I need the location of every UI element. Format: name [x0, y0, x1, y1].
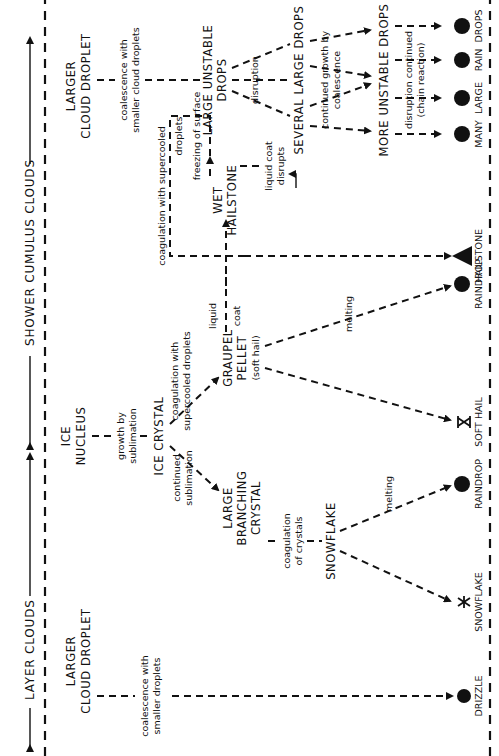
- graupel-label-2: PELLET: [235, 335, 249, 380]
- out-drops: DROPS: [473, 9, 484, 42]
- layer-clouds-heading: LAYER CLOUDS: [23, 599, 37, 700]
- soft-hail-out-label: SOFT HAIL: [473, 397, 484, 447]
- raindrop-icon: [454, 476, 470, 492]
- out-many: MANY: [473, 120, 484, 148]
- drizzle-icon: [457, 689, 471, 703]
- rain-drop-icon-3: [454, 52, 470, 68]
- snowflake-icon: [458, 596, 470, 608]
- coag-crystals-2: of crystals: [293, 516, 304, 565]
- out-rain: RAIN: [473, 49, 484, 72]
- branching-label-2: BRANCHING: [235, 471, 249, 546]
- precipitation-formation-diagram: LAYER CLOUDS SHOWER CUMULUS CLOUDS LARGE…: [0, 0, 499, 756]
- shower-coalescence-2: smaller cloud droplets: [130, 27, 141, 133]
- hailstone-out-label: HAILSTONE: [473, 229, 484, 283]
- growth-label-2: sublimation: [127, 408, 138, 464]
- coat-disrupts-2: disrupts: [275, 147, 286, 185]
- shower-droplet-label-2: CLOUD DROPLET: [79, 33, 93, 139]
- coag-super-2: supercooled droplets: [181, 331, 192, 431]
- shower-droplet-label-1: LARGER: [64, 61, 78, 111]
- coag-loop-1: coagulation with supercooled: [156, 126, 167, 266]
- graupel-melting-label: melting: [343, 296, 354, 332]
- raindrop-icon-2: [454, 276, 470, 292]
- layer-droplet-label-2: CLOUD DROPLET: [79, 608, 93, 714]
- several-large-drops-label: SEVERAL LARGE DROPS: [292, 5, 306, 154]
- growth-label-1: growth by: [115, 412, 126, 460]
- header-band: LAYER CLOUDS SHOWER CUMULUS CLOUDS: [23, 38, 37, 746]
- out-large: LARGE: [473, 82, 484, 114]
- continued-label-1: continued: [171, 454, 182, 501]
- coag-crystals-1: coagulation: [281, 513, 292, 569]
- unstable-label-1: LARGE UNSTABLE: [201, 25, 215, 136]
- graupel-label-3: (soft hail): [250, 335, 261, 380]
- unstable-label-2: DROPS: [215, 58, 229, 101]
- snowflake-melting-label: melting: [383, 476, 394, 512]
- layer-droplet-branch: LARGER CLOUD DROPLET coalescence with sm…: [64, 608, 484, 737]
- rain-drop-icon-4: [454, 18, 470, 34]
- wet-label-2: HAILSTONE: [225, 165, 239, 236]
- layer-droplet-label-1: LARGER: [64, 636, 78, 686]
- ice-nucleus-label-2: NUCLEUS: [74, 407, 88, 466]
- liquid-coat-1: liquid: [207, 303, 218, 329]
- hailstone-icon: [452, 246, 472, 266]
- coag-loop-2: droplets: [173, 117, 184, 156]
- ice-nucleus-label-1: ICE: [59, 426, 73, 447]
- coag-super-1: coagulation with: [169, 342, 180, 421]
- branching-label-3: CRYSTAL: [249, 481, 263, 535]
- liquid-coat-2: coat: [231, 305, 242, 326]
- layer-coalescence-1: coalescence with: [139, 655, 150, 737]
- continued-growth-1: continued growth by: [319, 31, 330, 129]
- raindrop-out-label: RAINDROP: [473, 459, 484, 509]
- shower-droplet-branch: LARGER CLOUD DROPLET coalescence with sm…: [64, 4, 484, 157]
- rain-drop-icon-1: [454, 126, 470, 142]
- continued-growth-2: coalescence: [331, 51, 342, 110]
- branching-label-1: LARGE: [221, 487, 235, 529]
- soft-hail-icon: [458, 416, 470, 428]
- drizzle-label: DRIZZLE: [473, 675, 484, 716]
- shower-coalescence-1: coalescence with: [118, 39, 129, 121]
- chain-reaction-2: (chain reaction): [415, 43, 426, 118]
- shower-cumulus-heading: SHOWER CUMULUS CLOUDS: [23, 159, 37, 346]
- rain-drop-icon-2: [454, 90, 470, 106]
- snowflake-label: SNOWFLAKE: [324, 502, 338, 580]
- snowflake-out-label: SNOWFLAKE: [473, 572, 484, 632]
- coat-disrupts-1: liquid coat: [263, 141, 274, 191]
- wet-label-1: WET: [211, 186, 225, 214]
- chain-reaction-1: disruption continued: [403, 31, 414, 129]
- graupel-label-1: GRAUPEL: [221, 329, 235, 387]
- layer-coalescence-2: smaller droplets: [151, 658, 162, 735]
- ice-nucleus-branch: ICE NUCLEUS growth by sublimation ICE CR…: [59, 91, 484, 631]
- ice-crystal-label: ICE CRYSTAL: [152, 397, 166, 476]
- continued-label-2: sublimation: [183, 450, 194, 506]
- more-unstable-label: MORE UNSTABLE DROPS: [377, 4, 391, 157]
- disruption-label: disruption: [249, 56, 260, 104]
